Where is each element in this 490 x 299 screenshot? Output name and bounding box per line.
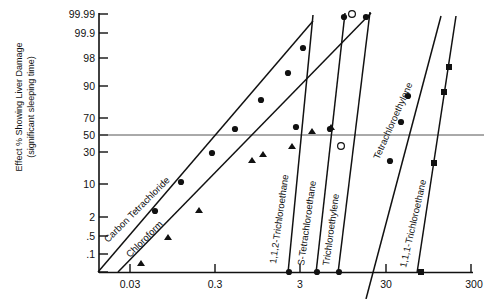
y-tick-label: 50 (83, 129, 95, 141)
series-label-1-1-2-trichloroethane: 1,1,2-Trichloroethane (267, 174, 290, 265)
x-tick-label: 30 (380, 278, 392, 290)
y-tick-label: 70 (83, 112, 95, 124)
x-tick-label: 300 (465, 278, 483, 290)
series-labels: Carbon Tetrachloride Chloroform 1,1,2-Tr… (102, 81, 429, 269)
y-tick-label: 2 (89, 211, 95, 223)
data-point (441, 89, 447, 95)
data-point (137, 260, 145, 266)
series-label-s-tetrachloroethane: S-Tetrachloroethane (295, 180, 318, 266)
y-tick-label: 10 (83, 178, 95, 190)
y-axis-tick-labels: 99.99 99.9 98 90 70 50 30 10 2 .5 .1 (69, 8, 95, 260)
chart-figure: Effect % Showing Liver Damage(significan… (0, 0, 490, 299)
y-axis-title: Effect % Showing Liver Damage(significan… (13, 22, 37, 192)
y-tick-label: 98 (83, 52, 95, 64)
data-point (285, 70, 291, 76)
y-axis: 99.99 99.9 98 90 70 50 30 10 2 .5 .1 (69, 8, 108, 274)
data-point (431, 160, 437, 166)
data-point (418, 269, 424, 275)
data-point (293, 124, 299, 130)
data-point (259, 151, 267, 157)
x-axis: 0.03 0.3 3 30 300 (99, 264, 483, 290)
x-tick-label: 3 (297, 278, 303, 290)
data-point (405, 93, 411, 99)
data-point (209, 150, 215, 156)
data-point (398, 119, 404, 125)
data-point (338, 143, 345, 150)
data-point (258, 97, 264, 103)
x-tick-label: 0.3 (208, 278, 223, 290)
data-point (300, 45, 306, 51)
series-label-chloroform: Chloroform (124, 218, 165, 259)
data-point (336, 269, 342, 275)
data-point (288, 143, 296, 149)
data-point (232, 126, 238, 132)
y-tick-label: 99.99 (69, 8, 95, 20)
series-line-1-1-1-trichloroethane (417, 16, 456, 273)
data-point (178, 179, 184, 185)
y-tick-label: .1 (86, 248, 95, 260)
data-point (387, 158, 393, 164)
series-label-tetrachloroethylene: Tetrachloroethylene (371, 81, 415, 161)
y-axis-title-line2: (significant sleeping time) (26, 56, 36, 158)
y-tick-label: 90 (83, 80, 95, 92)
data-points-filled-square (418, 64, 452, 275)
data-point (314, 269, 320, 275)
data-point (363, 14, 369, 20)
data-point (164, 234, 172, 240)
y-tick-label: 30 (83, 146, 95, 158)
data-point (349, 11, 356, 18)
data-point (152, 208, 158, 214)
series-label-carbon-tetrachloride: Carbon Tetrachloride (102, 174, 172, 244)
series-label-1-1-1-trichloroethane: 1,1,1-Trichloroethane (397, 178, 428, 268)
chart-canvas: 99.99 99.9 98 90 70 50 30 10 2 .5 .1 (0, 0, 490, 299)
data-point (341, 14, 347, 20)
y-tick-label: .5 (86, 230, 95, 242)
data-point (308, 128, 316, 134)
data-point (446, 64, 452, 70)
y-tick-label: 99.9 (75, 27, 96, 39)
data-point (195, 207, 203, 213)
data-point (286, 269, 292, 275)
data-point (248, 157, 256, 163)
y-axis-title-line1: Effect % Showing Liver Damage (14, 43, 24, 172)
x-tick-label: 0.03 (120, 278, 141, 290)
x-axis-tick-labels: 0.03 0.3 3 30 300 (120, 278, 483, 290)
